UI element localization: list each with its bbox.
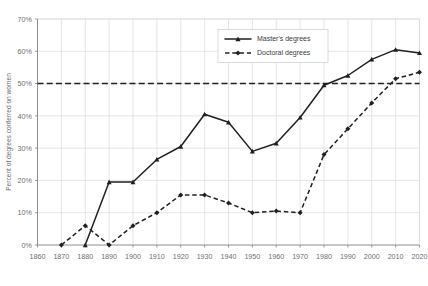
- chart-legend: Master's degreesDoctoral degrees: [218, 30, 328, 63]
- x-axis-tick-1970: 1970: [292, 252, 308, 261]
- y-axis-tick-labels: 0%10%20%30%40%50%60%70%: [18, 15, 33, 250]
- x-axis-tick-1910: 1910: [149, 252, 165, 261]
- x-axis-tick-1900: 1900: [125, 252, 141, 261]
- series-line-1: [61, 72, 419, 245]
- x-axis-tick-2020: 2020: [412, 252, 428, 261]
- x-axis-tick-1930: 1930: [197, 252, 213, 261]
- legend-label-1: Doctoral degrees: [257, 49, 311, 57]
- x-axis-tick-1870: 1870: [53, 252, 69, 261]
- x-axis-tick-1860: 1860: [30, 252, 46, 261]
- legend-label-0: Master's degrees: [257, 35, 311, 43]
- y-axis-tick-20%: 20%: [18, 176, 33, 185]
- y-axis-tick-60%: 60%: [18, 47, 33, 56]
- x-axis-tick-1980: 1980: [316, 252, 332, 261]
- y-axis-tick-40%: 40%: [18, 112, 33, 121]
- x-axis-tick-1950: 1950: [244, 252, 260, 261]
- y-axis-tick-0%: 0%: [22, 241, 33, 250]
- x-axis-tick-2000: 2000: [364, 252, 380, 261]
- data-point-marker: [250, 210, 255, 215]
- x-axis-tick-1890: 1890: [101, 252, 117, 261]
- data-point-marker: [393, 76, 398, 81]
- data-point-marker: [417, 70, 422, 75]
- y-axis-title: Percent of degrees conferred on women: [5, 73, 13, 191]
- x-axis-tick-1940: 1940: [221, 252, 237, 261]
- x-axis-tick-1960: 1960: [268, 252, 284, 261]
- data-point-marker: [202, 192, 207, 197]
- x-axis-tick-2010: 2010: [388, 252, 404, 261]
- chart-container: 0%10%20%30%40%50%60%70% 1860187018801890…: [0, 0, 428, 286]
- data-point-marker: [226, 201, 231, 206]
- line-chart: 0%10%20%30%40%50%60%70% 1860187018801890…: [0, 0, 428, 286]
- y-axis-tick-10%: 10%: [18, 208, 33, 217]
- data-series: [59, 47, 422, 247]
- y-axis-tick-30%: 30%: [18, 144, 33, 153]
- x-axis-tick-1990: 1990: [340, 252, 356, 261]
- data-point-marker: [298, 210, 303, 215]
- x-axis-tick-1880: 1880: [77, 252, 93, 261]
- x-axis-tick-labels: 1860187018801890190019101920193019401950…: [30, 252, 428, 261]
- y-axis-tick-50%: 50%: [18, 79, 33, 88]
- y-axis-tick-70%: 70%: [18, 15, 33, 24]
- x-axis-tick-1920: 1920: [173, 252, 189, 261]
